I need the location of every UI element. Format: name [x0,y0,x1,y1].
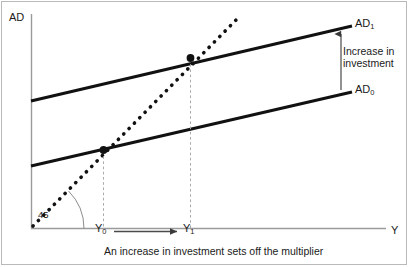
ad0-curve-label: AD0 [355,83,374,96]
ad0-curve [31,92,352,166]
new-equilibrium-point [187,54,195,62]
y1-tick-label: Y1 [183,222,195,235]
degree-symbol: ° [49,208,52,215]
forty-five-degree-value: 45 [38,209,49,220]
investment-annotation: Increase in investment [343,45,394,70]
forty-five-degree-label: 45° [38,209,51,220]
ad1-label-subscript: 1 [370,22,374,31]
y1-tick-subscript: 1 [190,227,194,236]
initial-equilibrium-point [100,146,108,154]
angle-arc [69,191,85,229]
figure-caption: An increase in investment sets off the m… [104,245,323,257]
diagram-canvas [0,0,409,267]
figure-container: AD Y AD1 AD0 Increase in investment Y0 Y… [0,0,409,267]
x-axis-label: Y [391,224,398,237]
y-axis-label: AD [9,11,24,24]
ad1-label-text: AD [355,17,370,29]
investment-annotation-line2: investment [343,57,394,69]
ad1-curve-label: AD1 [355,17,374,30]
forty-five-degree-line [33,18,238,226]
investment-annotation-line1: Increase in [343,45,394,57]
ad0-label-text: AD [355,83,370,95]
y0-tick-label: Y0 [95,222,107,235]
y0-tick-subscript: 0 [102,227,106,236]
ad1-curve [31,26,352,101]
ad0-label-subscript: 0 [370,88,374,97]
